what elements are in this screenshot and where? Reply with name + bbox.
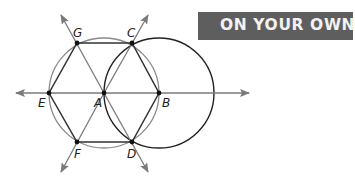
label-g: G <box>73 26 82 40</box>
label-a: A <box>93 96 102 110</box>
point-e <box>47 91 52 96</box>
label-b: B <box>162 96 170 110</box>
line-gd-up <box>61 15 104 93</box>
point-f <box>75 140 80 145</box>
line-cf-up <box>104 15 148 93</box>
label-e: E <box>38 96 46 110</box>
label-d: D <box>127 147 136 161</box>
point-c <box>130 41 135 46</box>
label-c: C <box>127 26 136 40</box>
point-b <box>157 91 162 96</box>
label-f: F <box>74 147 82 161</box>
point-d <box>130 140 135 145</box>
point-a <box>102 91 107 96</box>
point-g <box>75 41 80 46</box>
